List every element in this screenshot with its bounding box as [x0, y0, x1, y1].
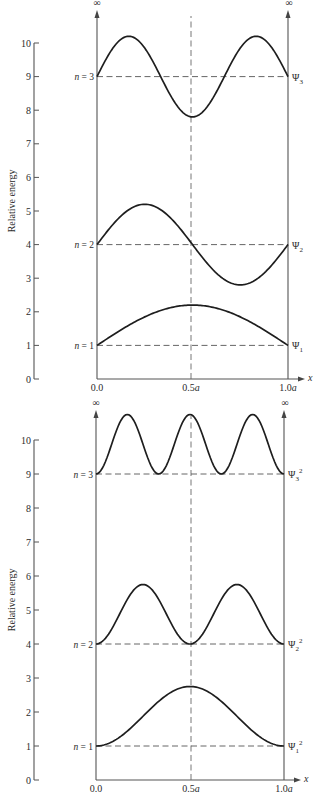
y-tick-label: 0: [26, 374, 31, 385]
wavefunction-label: Ψ12: [288, 739, 303, 755]
up-arrow-icon: [286, 10, 291, 18]
x-axis-var: x: [307, 372, 313, 383]
x-tick-label: 1.0a: [275, 783, 293, 794]
y-tick-label: 10: [21, 435, 31, 446]
x-tick-label: 0.5a: [182, 382, 200, 393]
y-tick-label: 3: [26, 673, 31, 684]
level-label: n = 1: [74, 341, 94, 351]
probability-density-curve-1: [96, 687, 284, 747]
y-axis-title: Relative energy: [6, 568, 17, 631]
up-arrow-icon: [282, 410, 287, 418]
energy-axis: 012345678910Relative energy: [6, 38, 39, 385]
up-arrow-icon: [94, 410, 99, 418]
y-tick-label: 7: [26, 138, 31, 149]
energy-level-n1: n = 1Ψ1: [74, 305, 303, 354]
level-label: n = 2: [73, 640, 93, 650]
y-tick-label: 1: [26, 340, 31, 351]
box-walls: ∞∞: [92, 397, 288, 780]
y-tick-label: 6: [26, 172, 31, 183]
y-tick-label: 5: [26, 206, 31, 217]
y-tick-label: 4: [26, 639, 31, 650]
infinity-label: ∞: [93, 0, 100, 8]
infinity-label: ∞: [281, 397, 288, 408]
energy-axis: 012345678910Relative energy: [6, 435, 39, 786]
level-label: n = 2: [74, 240, 94, 250]
infinity-label: ∞: [285, 0, 292, 8]
level-label: n = 1: [73, 742, 93, 752]
wavefunction-label: Ψ3: [292, 72, 303, 86]
y-tick-label: 2: [26, 707, 31, 718]
wavefunction-label: Ψ22: [288, 637, 303, 653]
wavefunction-label: Ψ32: [288, 467, 303, 483]
energy-level-n3: n = 3Ψ3: [74, 36, 303, 117]
infinity-label: ∞: [92, 397, 99, 408]
y-tick-label: 8: [26, 503, 31, 514]
particle-in-box-figure: 012345678910Relative energy∞∞x0.00.5a1.0…: [0, 0, 328, 800]
y-tick-label: 1: [26, 741, 31, 752]
y-tick-label: 10: [21, 38, 31, 49]
y-tick-label: 5: [26, 605, 31, 616]
y-axis-title: Relative energy: [6, 169, 17, 232]
right-arrow-icon: [298, 377, 305, 382]
up-arrow-icon: [95, 10, 100, 18]
energy-level-n3: n = 3Ψ32: [73, 415, 303, 484]
x-tick-label: 1.0a: [279, 382, 297, 393]
energy-level-n2: n = 2Ψ22: [73, 585, 303, 654]
wavefunction-label: Ψ1: [292, 340, 303, 354]
y-tick-label: 9: [26, 469, 31, 480]
x-tick-label: 0.5a: [182, 783, 200, 794]
position-axis: x0.00.5a1.0a: [91, 372, 313, 393]
y-tick-label: 2: [26, 306, 31, 317]
y-tick-label: 6: [26, 571, 31, 582]
probability-density-curve-2: [96, 585, 284, 645]
position-axis: x0.00.5a1.0a: [90, 773, 309, 794]
box-walls: ∞∞: [93, 0, 292, 379]
y-tick-label: 3: [26, 273, 31, 284]
right-arrow-icon: [294, 778, 301, 783]
probability-density-curve-3: [96, 415, 284, 475]
wavefunction-curve-1: [97, 305, 288, 345]
level-label: n = 3: [73, 470, 93, 480]
x-axis-var: x: [303, 773, 309, 784]
wavefunction-label: Ψ2: [292, 240, 303, 254]
x-tick-label: 0.0: [91, 382, 104, 393]
diagram-canvas: 012345678910Relative energy∞∞x0.00.5a1.0…: [0, 0, 328, 800]
panel-wavefunctions: 012345678910Relative energy∞∞x0.00.5a1.0…: [6, 0, 313, 393]
level-label: n = 3: [74, 72, 94, 82]
x-tick-label: 0.0: [90, 783, 103, 794]
panel-probability: 012345678910Relative energy∞∞x0.00.5a1.0…: [6, 397, 309, 794]
energy-level-n2: n = 2Ψ2: [74, 204, 303, 285]
y-tick-label: 8: [26, 105, 31, 116]
y-tick-label: 9: [26, 71, 31, 82]
y-tick-label: 0: [26, 775, 31, 786]
y-tick-label: 4: [26, 239, 31, 250]
y-tick-label: 7: [26, 537, 31, 548]
energy-level-n1: n = 1Ψ12: [73, 687, 303, 756]
